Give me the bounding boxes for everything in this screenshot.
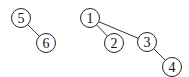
node-label: 3 <box>144 35 151 50</box>
node-2: 2 <box>105 34 124 53</box>
node-label: 1 <box>87 11 94 26</box>
node-label: 4 <box>169 60 176 75</box>
graph-diagram: 5 6 1 2 3 4 <box>0 0 189 77</box>
node-label: 5 <box>18 11 25 26</box>
node-label: 6 <box>43 36 50 51</box>
node-1: 1 <box>81 9 100 28</box>
node-3: 3 <box>138 33 157 52</box>
node-label: 2 <box>111 36 118 51</box>
node-4: 4 <box>163 58 182 77</box>
node-5: 5 <box>12 9 31 28</box>
node-6: 6 <box>37 34 56 53</box>
